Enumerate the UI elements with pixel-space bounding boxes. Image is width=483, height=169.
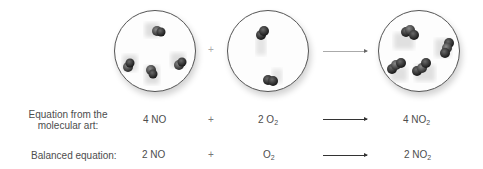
product-sub: 2 xyxy=(426,119,430,126)
reaction-arrow-molecular xyxy=(323,119,367,120)
plus-balanced: + xyxy=(208,149,214,160)
row-label-molecular-art: Equation from the molecular art: xyxy=(20,109,116,131)
reactant2-molecular: 2 O2 xyxy=(258,114,278,126)
reactant2-coef: 2 O xyxy=(258,114,274,125)
product-no2-circle xyxy=(378,10,460,92)
product-molecular: 4 NO2 xyxy=(403,114,430,126)
row-label-line1: Equation from the xyxy=(20,109,116,120)
reactant2-balanced: O2 xyxy=(263,149,275,161)
reactant1-molecular: 4 NO xyxy=(143,114,166,126)
reactant2-coef: O xyxy=(263,149,271,160)
product-balanced: 2 NO2 xyxy=(404,149,431,161)
row-label-balanced: Balanced equation: xyxy=(22,150,137,161)
o2-molecules-icon xyxy=(228,11,310,93)
art-plus-sign: + xyxy=(208,44,214,55)
row-label-line2: molecular art: xyxy=(20,120,116,131)
plus-molecular: + xyxy=(208,114,214,125)
reaction-arrow-balanced xyxy=(323,155,367,156)
reactant-no-circle xyxy=(114,10,196,92)
no2-molecules-icon xyxy=(379,11,461,93)
reactant2-sub: 2 xyxy=(274,119,278,126)
reactant1-balanced: 2 NO xyxy=(142,149,165,161)
no-molecules-icon xyxy=(115,11,197,93)
product-coef: 4 NO xyxy=(403,114,426,125)
reactant2-sub: 2 xyxy=(271,154,275,161)
reactant-o2-circle xyxy=(227,10,309,92)
art-reaction-arrow xyxy=(323,51,367,52)
product-coef: 2 NO xyxy=(404,149,427,160)
product-sub: 2 xyxy=(427,154,431,161)
